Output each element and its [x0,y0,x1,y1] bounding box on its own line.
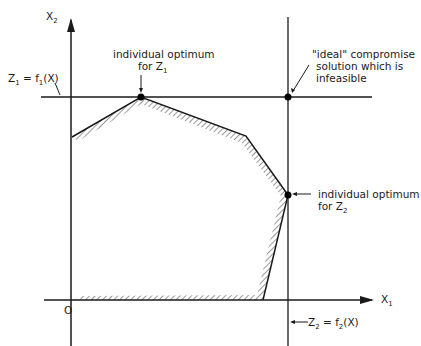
x2-axis-label: X2 [46,10,58,24]
z1-equation-label: Z1 = f1(X) [8,72,59,86]
feasible-region-boundary [72,97,288,300]
z2-equation-label: Z2 = f2(X) [308,316,359,330]
ideal-solution-label: "ideal" compromisesolution which isinfea… [312,48,415,84]
x1-arrow-icon [360,296,374,304]
opt-z2-label: individual optimumfor Z2 [318,188,420,214]
opt-z1-point [138,94,145,101]
arrowhead-icon [139,88,143,93]
origin-label: O [64,304,72,316]
arrowhead-icon [290,320,295,324]
diagram: X2 X1 O Z1 = f1(X) Z2 = f2(X) individual… [0,0,421,346]
x1-axis-label: X1 [381,293,393,307]
arrowhead-icon [292,192,297,196]
opt-z1-label: individual optimumfor Z1 [113,48,215,74]
x2-arrow-icon [67,18,75,32]
opt-z2-point [285,192,292,199]
ideal-point [285,94,292,101]
feasible-region-hatching [72,97,288,300]
ideal-leader [293,65,309,91]
